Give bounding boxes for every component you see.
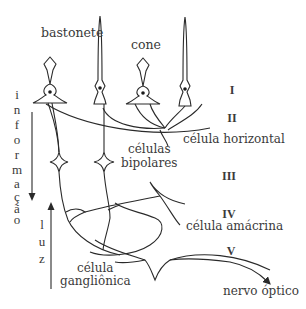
bipolar-cell-left	[50, 152, 68, 172]
layer-label-2: II	[227, 111, 237, 125]
cone-cell-right	[126, 58, 160, 104]
bipolar-label-line2: bipolares	[121, 156, 177, 170]
horizontal-cell-label: célula horizontal	[183, 132, 285, 146]
ganglion-label-line1: célula	[77, 261, 113, 275]
layer-label-3: III	[222, 169, 236, 183]
layer-label-4: IV	[222, 207, 236, 221]
info-letter: i	[15, 87, 19, 102]
light-letter: u	[39, 234, 46, 249]
light-label-vertical: l u z	[39, 217, 46, 266]
layer-label-5: V	[227, 244, 236, 258]
info-letter: f	[15, 117, 20, 132]
optic-nerve-label: nervo óptico	[223, 284, 299, 298]
retina-layers-diagram: i n f o r m a ç ã o l u z bastonete cone…	[0, 0, 306, 309]
ganglion-label-line2: gangliônica	[60, 274, 131, 288]
amacrine-cell-label: célula amácrina	[186, 219, 283, 233]
light-letter: l	[40, 217, 44, 232]
light-letter: z	[39, 251, 45, 266]
cone-label: cone	[131, 37, 161, 52]
information-label-vertical: i n f o r m a ç ã o	[12, 87, 22, 227]
layer-label-1: I	[230, 83, 235, 97]
light-direction-arrow	[48, 202, 55, 289]
information-flow-arrow	[29, 112, 36, 201]
cone-cell-left	[33, 57, 67, 103]
info-letter: n	[14, 102, 21, 117]
info-letter: r	[15, 147, 20, 162]
info-letter: m	[12, 162, 22, 177]
bipolar-label-line1: células	[128, 142, 171, 156]
rod-cell-right	[179, 17, 191, 106]
info-letter: o	[14, 212, 21, 227]
rod-label: bastonete	[41, 25, 103, 40]
bipolar-cell-right	[94, 152, 114, 172]
info-letter: o	[14, 132, 21, 147]
amacrine-cell	[66, 182, 185, 255]
